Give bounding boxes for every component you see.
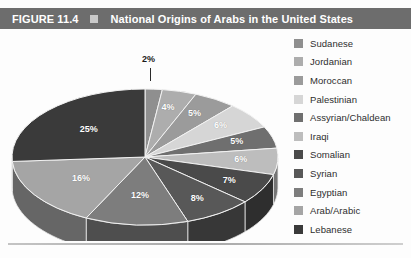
legend-item[interactable]: Moroccan [294, 71, 411, 90]
figure-title: National Origins of Arabs in the United … [111, 13, 354, 25]
legend-swatch-icon [294, 225, 303, 234]
figure-container: FIGURE 11.4 National Origins of Arabs in… [0, 0, 411, 258]
chart-legend: SudaneseJordanianMoroccanPalestinianAssy… [294, 34, 411, 239]
square-bullet-icon [90, 15, 98, 23]
legend-item[interactable]: Iraqi [294, 127, 411, 146]
legend-item[interactable]: Arab/Arabic [294, 201, 411, 220]
pie-slice-percentage-label: 5% [230, 136, 243, 146]
legend-item-label: Assyrian/Chaldean [310, 112, 391, 123]
legend-swatch-icon [294, 39, 303, 48]
legend-item-label: Jordanian [310, 56, 352, 67]
legend-item-label: Syrian [310, 168, 337, 179]
legend-item-label: Somalian [310, 149, 350, 160]
legend-item-label: Iraqi [310, 131, 329, 142]
pie-slice-percentage-label: 2% [142, 54, 155, 64]
legend-item[interactable]: Syrian [294, 164, 411, 183]
legend-item[interactable]: Egyptian [294, 183, 411, 202]
legend-swatch-icon [294, 95, 303, 104]
legend-swatch-icon [294, 76, 303, 85]
legend-swatch-icon [294, 169, 303, 178]
legend-item-label: Arab/Arabic [310, 205, 360, 216]
legend-item[interactable]: Jordanian [294, 53, 411, 72]
pie-slice-percentage-label: 5% [188, 108, 201, 118]
pie-slice-percentage-label: 7% [223, 175, 236, 185]
legend-item-label: Sudanese [310, 38, 353, 49]
legend-item-label: Palestinian [310, 94, 357, 105]
bottom-divider [8, 243, 403, 245]
figure-header-bar: FIGURE 11.4 National Origins of Arabs in… [0, 8, 411, 29]
legend-item-label: Egyptian [310, 187, 347, 198]
pie-slice-percentage-label: 25% [80, 124, 98, 134]
pie-slice[interactable] [12, 89, 145, 161]
legend-item-label: Lebanese [310, 224, 352, 235]
legend-swatch-icon [294, 150, 303, 159]
pie-slice-percentage-label: 6% [214, 120, 227, 130]
legend-item-label: Moroccan [310, 75, 352, 86]
legend-swatch-icon [294, 188, 303, 197]
pie-chart-plot-area: 2%4%5%6%5%6%7%8%12%16%25% [0, 29, 290, 241]
legend-swatch-icon [294, 132, 303, 141]
legend-item[interactable]: Assyrian/Chaldean [294, 108, 411, 127]
legend-item[interactable]: Palestinian [294, 90, 411, 109]
leader-line-2-percent [150, 68, 151, 81]
legend-swatch-icon [294, 206, 303, 215]
pie-slice-percentage-label: 4% [162, 102, 175, 112]
pie-slice-percentage-label: 16% [72, 173, 90, 183]
pie-slice-percentage-label: 8% [191, 193, 204, 203]
pie-slice-percentage-label: 6% [234, 154, 247, 164]
figure-number: FIGURE 11.4 [12, 13, 79, 25]
pie-slice-percentage-label: 12% [131, 190, 149, 200]
legend-swatch-icon [294, 113, 303, 122]
legend-item[interactable]: Lebanese [294, 220, 411, 239]
legend-item[interactable]: Sudanese [294, 34, 411, 53]
legend-swatch-icon [294, 57, 303, 66]
legend-item[interactable]: Somalian [294, 146, 411, 165]
